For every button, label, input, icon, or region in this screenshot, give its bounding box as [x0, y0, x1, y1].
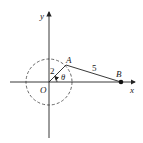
point-b-dot [119, 80, 124, 85]
point-a-label: A [65, 55, 72, 65]
angle-theta-label: θ [61, 72, 65, 82]
angle-arc [55, 76, 57, 82]
diagram-canvas: y x O A B 2 5 θ [0, 0, 143, 143]
x-axis-label: x [129, 85, 134, 95]
origin-label: O [40, 85, 47, 95]
oa-length-label: 2 [50, 66, 55, 76]
point-b-label: B [116, 69, 122, 79]
ab-length-label: 5 [92, 63, 97, 73]
y-axis-label: y [39, 11, 44, 21]
